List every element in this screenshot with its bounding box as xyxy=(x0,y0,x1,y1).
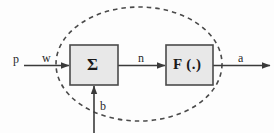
signal-label-net: n xyxy=(138,52,144,64)
signal-label-weight: w xyxy=(42,52,51,64)
signal-label-bias: b xyxy=(100,100,106,112)
signal-label-output: a xyxy=(238,52,243,64)
neuron-diagram: Σ F (.) p w n b a xyxy=(0,0,274,133)
diagram-vector-layer xyxy=(0,0,274,133)
block-label-summation: Σ xyxy=(87,56,98,73)
signal-label-input: p xyxy=(13,53,19,65)
block-label-transfer-function: F (.) xyxy=(173,57,202,72)
